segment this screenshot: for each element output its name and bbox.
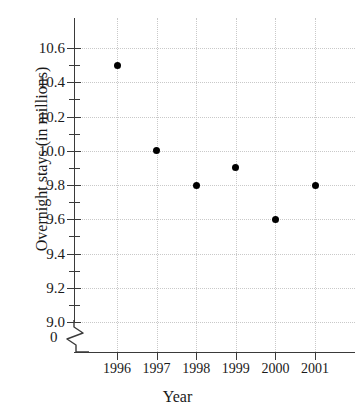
gridline-vertical: [157, 18, 158, 352]
y-axis-tick-minor: [69, 134, 80, 135]
y-axis-tick-label: 9.2: [5, 280, 65, 295]
y-axis-tick-major: [67, 117, 81, 118]
y-axis-tick-minor: [69, 305, 80, 306]
y-axis-tick-major: [67, 48, 81, 49]
plot-area: [74, 18, 355, 352]
y-axis-tick-major: [67, 322, 81, 323]
y-axis-tick-minor: [69, 65, 80, 66]
y-axis-tick-label: 9.6: [5, 212, 65, 227]
axis-break-icon: [63, 320, 89, 354]
data-point: [232, 164, 239, 171]
x-axis-tick: [117, 352, 118, 360]
y-axis-tick-minor: [69, 168, 80, 169]
y-axis-tick-minor: [69, 271, 80, 272]
x-axis-tick: [315, 352, 316, 360]
x-axis-tick-label: 1996: [103, 362, 131, 376]
x-axis-tick-label: 2001: [301, 362, 329, 376]
data-point: [114, 62, 121, 69]
data-point: [153, 147, 160, 154]
scatter-chart: 0 Overnight stays (in millions) Year 9.0…: [0, 0, 355, 418]
x-axis-tick-label: 1997: [143, 362, 171, 376]
x-axis-tick: [275, 352, 276, 360]
x-axis-tick: [157, 352, 158, 360]
y-axis-tick-major: [67, 82, 81, 83]
y-axis-tick-label: 9.0: [5, 315, 65, 330]
y-axis-tick-label: 10.6: [5, 41, 65, 56]
x-axis-title: Year: [0, 388, 355, 406]
x-axis-tick-label: 2000: [261, 362, 289, 376]
y-axis-tick-minor: [69, 202, 80, 203]
data-point: [312, 182, 319, 189]
data-point: [193, 182, 200, 189]
y-axis-tick-minor: [69, 99, 80, 100]
gridline-vertical: [236, 18, 237, 352]
x-axis-tick-label: 1998: [182, 362, 210, 376]
y-axis-tick-label: 10.0: [5, 143, 65, 158]
y-axis-line: [74, 18, 75, 322]
x-axis-tick: [196, 352, 197, 360]
y-axis-tick-major: [67, 254, 81, 255]
y-axis-tick-minor: [69, 236, 80, 237]
y-axis-tick-label: 9.8: [5, 178, 65, 193]
y-axis-tick-major: [67, 151, 81, 152]
x-axis-tick: [236, 352, 237, 360]
y-axis-tick-major: [67, 219, 81, 220]
y-axis-tick-major: [67, 288, 81, 289]
y-axis-tick-major: [67, 185, 81, 186]
y-axis-tick-label: 9.4: [5, 246, 65, 261]
y-axis-tick-label: 10.2: [5, 109, 65, 124]
y-axis-origin-label: 0: [50, 330, 58, 345]
y-axis-tick-label: 10.4: [5, 75, 65, 90]
gridline-vertical: [275, 18, 276, 352]
data-point: [272, 216, 279, 223]
x-axis-tick-label: 1999: [222, 362, 250, 376]
